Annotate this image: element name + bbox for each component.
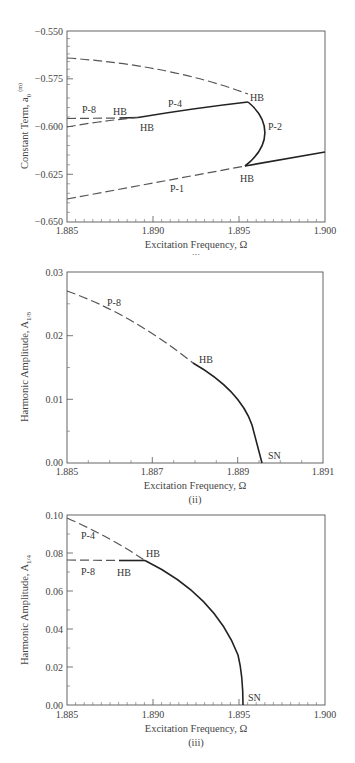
p8-unstable-curve — [67, 118, 120, 119]
annotation-p4: P-4 — [168, 98, 182, 109]
x-tick-label: 1.890 — [142, 709, 165, 720]
annotation-hb: HB — [240, 173, 254, 184]
x-axis-label: Excitation Frequency, Ω — [145, 239, 248, 250]
chart-panel-iii: P-4 HB P-8 HB SN 0.10 0.08 0.06 0.04 0.0… — [0, 505, 355, 763]
x-axis-label: Excitation Frequency, Ω — [145, 723, 248, 734]
annotation-hb: HB — [117, 567, 131, 578]
y-tick-label: 0.04 — [46, 624, 64, 635]
p4-unstable-curve — [67, 118, 138, 128]
annotation-p8: P-8 — [107, 297, 121, 308]
svg-text:Harmonic Amplitude, A1/8: Harmonic Amplitude, A1/8 — [19, 311, 33, 422]
y-ticks — [67, 304, 73, 431]
x-tick-label: 1.889 — [227, 466, 250, 477]
p4-stable-curve — [145, 561, 243, 706]
y-tick-label: 0.06 — [46, 586, 64, 597]
y-axis-label: Harmonic Amplitude, A1/4 — [19, 554, 33, 665]
x-axis-label: Excitation Frequency, Ω — [144, 480, 247, 491]
y-axis-label: Constant Term, a0(m) — [17, 83, 33, 169]
annotation-hb: HB — [199, 354, 213, 365]
p2-stable-curve — [245, 102, 265, 166]
x-tick-label: 1.885 — [56, 466, 79, 477]
x-tick-label: 1.891 — [312, 466, 335, 477]
y-tick-label: 0.03 — [46, 267, 64, 278]
p8-stable-curve — [193, 363, 262, 463]
x-tick-label: 1.890 — [142, 225, 165, 236]
x-tick-label: 1.885 — [56, 709, 79, 720]
x-tick-label: 1.895 — [228, 225, 251, 236]
x-minor-ticks — [76, 216, 317, 222]
x-tick-label: 1.900 — [314, 225, 337, 236]
panel-label: (iii) — [188, 737, 204, 749]
x-tick-label: 1.887 — [141, 466, 164, 477]
annotation-p8: P-8 — [81, 566, 95, 577]
svg-text:Harmonic Amplitude, A1/4: Harmonic Amplitude, A1/4 — [19, 554, 33, 665]
annotation-hb: HB — [250, 92, 264, 103]
y-tick-label: −0.600 — [35, 121, 63, 132]
annotation-hb: HB — [113, 106, 127, 117]
p4-stable-curve — [138, 102, 248, 118]
p2-upper-unstable-curve — [67, 58, 248, 94]
x-tick-label: 1.895 — [228, 709, 251, 720]
chart-panel-i: P-8 HB P-4 HB HB P-2 HB P-1 −0.550 −0.57… — [0, 0, 355, 255]
y-tick-label: 0.02 — [46, 330, 64, 341]
y-tick-label: 0.08 — [46, 548, 64, 559]
annotation-p2: P-2 — [268, 121, 282, 132]
plot-frame — [67, 31, 325, 222]
annotation-p4: P-4 — [81, 530, 95, 541]
annotation-p1: P-1 — [170, 183, 184, 194]
annotation-p8: P-8 — [82, 104, 96, 115]
p1-unstable-curve — [67, 166, 245, 199]
p8-unstable-curve — [67, 291, 193, 363]
chart-panel-ii: P-8 HB SN 0.03 0.02 0.01 0.00 1.885 1.88… — [0, 255, 355, 505]
y-minor-ticks — [67, 39, 73, 213]
annotation-sn: SN — [248, 692, 261, 703]
annotation-sn: SN — [268, 450, 281, 461]
y-ticks — [67, 534, 73, 686]
x-tick-label: 1.900 — [314, 709, 337, 720]
y-tick-label: 0.02 — [46, 662, 64, 673]
panel-label: (ii) — [189, 494, 202, 505]
svg-text:Constant Term, a0(m): Constant Term, a0(m) — [17, 83, 33, 169]
y-tick-label: 0.01 — [46, 394, 64, 405]
y-tick-label: −0.575 — [35, 73, 63, 84]
p4-unstable-curve — [67, 518, 145, 561]
annotation-hb: HB — [140, 122, 154, 133]
y-axis-label: Harmonic Amplitude, A1/8 — [19, 311, 33, 422]
plot-frame — [67, 515, 325, 705]
y-tick-label: 0.10 — [46, 510, 64, 521]
x-tick-label: 1.885 — [56, 225, 79, 236]
plot-frame — [67, 272, 323, 463]
x-ticks — [76, 699, 317, 705]
annotation-hb: HB — [146, 548, 160, 559]
y-tick-label: −0.625 — [35, 169, 63, 180]
p8-unstable-curve — [67, 560, 119, 561]
y-tick-label: −0.550 — [35, 26, 63, 37]
